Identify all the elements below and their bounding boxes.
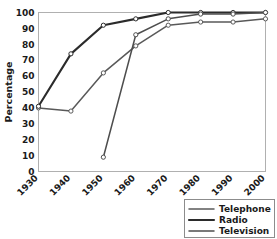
x-tick-label: 1990 <box>210 173 235 198</box>
y-tick-label: 40 <box>22 103 35 113</box>
y-axis-title: Percentage <box>3 61 14 122</box>
y-tick-label: 80 <box>22 40 35 50</box>
y-tick-label: 50 <box>22 87 35 97</box>
legend-label-radio[interactable]: Radio <box>219 215 248 225</box>
y-tick-label: 90 <box>22 24 35 34</box>
x-tick-label: 1980 <box>177 173 202 198</box>
chart-legend: TelephoneRadioTelevision <box>185 200 275 238</box>
y-tick-label: 60 <box>22 71 35 81</box>
x-tick-label: 1940 <box>48 173 73 198</box>
x-tick-label: 2000 <box>242 173 267 198</box>
legend-label-telephone[interactable]: Telephone <box>219 204 271 214</box>
x-tick-label: 1960 <box>112 173 137 198</box>
y-tick-label: 100 <box>16 8 35 18</box>
chart-canvas: 0102030405060708090100 19301940195019601… <box>0 0 277 239</box>
y-tick-label: 70 <box>22 55 35 65</box>
x-axis-tick-labels: 19301940195019601970198019902000 <box>15 173 267 198</box>
x-tick-label: 1970 <box>145 173 170 198</box>
y-tick-label: 20 <box>22 135 35 145</box>
y-tick-label: 30 <box>22 119 35 129</box>
line-chart: 0102030405060708090100 19301940195019601… <box>0 0 277 239</box>
y-axis-tick-labels: 0102030405060708090100 <box>16 8 35 177</box>
y-tick-label: 10 <box>22 151 35 161</box>
legend-label-television[interactable]: Television <box>219 226 269 236</box>
x-tick-label: 1950 <box>80 173 105 198</box>
